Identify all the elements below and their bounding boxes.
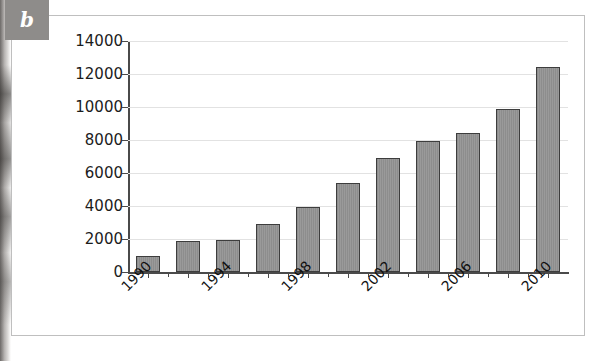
y-axis-tick-label: 14000 <box>75 32 123 50</box>
scan-edge-artifact <box>0 0 11 361</box>
x-axis-minor-tick <box>408 272 409 277</box>
x-axis-tick <box>188 272 189 278</box>
y-axis-tick-labels: 02000400060008000100001200014000 <box>11 41 123 272</box>
x-axis-minor-tick <box>168 272 169 277</box>
x-axis-tick <box>428 272 429 278</box>
y-axis-tick <box>122 173 128 174</box>
panel-label-text: b <box>20 10 34 30</box>
y-axis-tick <box>122 107 128 108</box>
y-axis-tick <box>122 41 128 42</box>
y-axis-tick-label: 2000 <box>85 230 123 248</box>
y-axis-tick <box>122 74 128 75</box>
bar <box>256 224 281 272</box>
y-axis-tick-label: 4000 <box>85 197 123 215</box>
x-axis-minor-tick <box>328 272 329 277</box>
y-axis-tick-label: 8000 <box>85 131 123 149</box>
x-axis-tick <box>348 272 349 278</box>
bar <box>536 67 561 272</box>
gridline <box>128 74 568 75</box>
bar <box>416 141 441 272</box>
y-axis-tick-label: 10000 <box>75 98 123 116</box>
x-axis-minor-tick <box>488 272 489 277</box>
bar <box>496 109 521 272</box>
bar <box>176 241 201 272</box>
plot-area <box>128 41 568 272</box>
y-axis-tick-label: 12000 <box>75 65 123 83</box>
panel-label-badge: b <box>5 0 49 40</box>
x-axis-tick <box>508 272 509 278</box>
bar <box>376 158 401 272</box>
bar <box>456 133 481 272</box>
x-axis-minor-tick <box>248 272 249 277</box>
y-axis-tick <box>122 140 128 141</box>
y-axis-tick-label: 6000 <box>85 164 123 182</box>
x-axis-tick <box>268 272 269 278</box>
x-axis-tick-label: 1990 <box>118 258 155 295</box>
gridline <box>128 41 568 42</box>
y-axis-tick <box>122 206 128 207</box>
bar-chart: 02000400060008000100001200014000 1990199… <box>11 15 585 336</box>
y-axis-tick <box>122 239 128 240</box>
bar <box>336 183 361 272</box>
